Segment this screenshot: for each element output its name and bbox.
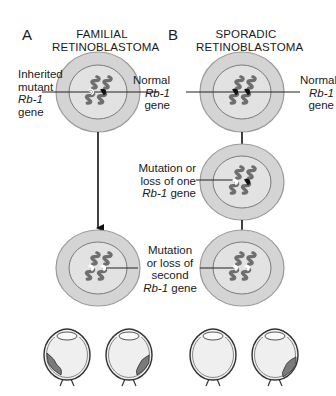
- panel-b-title-line2: RETINOBLASTOMA: [196, 41, 296, 54]
- gene-name: Rb-1: [18, 93, 78, 106]
- label-text: Inherited: [18, 68, 78, 81]
- label-text: gene: [168, 282, 197, 294]
- label-normal-gene-b-right: Normal Rb-1 gene: [300, 74, 334, 112]
- label-text: loss of one: [126, 175, 196, 188]
- gene-name: Rb-1: [142, 187, 167, 199]
- label-text: Normal: [118, 74, 170, 87]
- label-text: Mutation: [138, 244, 202, 257]
- panel-a-title-line1: FAMILIAL: [52, 28, 152, 41]
- cell-b-bottom: [200, 230, 284, 306]
- label-text: second: [138, 269, 202, 282]
- label-text: gene: [300, 99, 334, 112]
- cell-b-middle: [196, 144, 284, 220]
- label-text: Normal: [300, 74, 334, 87]
- panel-b-title-line1: SPORADIC: [196, 28, 296, 41]
- eye-a-left: [44, 329, 90, 386]
- label-text: gene: [18, 106, 78, 119]
- label-first-hit: Mutation or loss of one Rb-1 gene: [126, 162, 196, 200]
- panel-a-letter: A: [22, 27, 32, 42]
- gene-name: Rb-1: [300, 87, 334, 100]
- panel-a-title-line2: RETINOBLASTOMA: [52, 41, 152, 54]
- gene-name: Rb-1: [118, 87, 170, 100]
- label-text: or loss of: [138, 257, 202, 270]
- eye-b-right: [252, 329, 298, 386]
- label-text: Mutation or: [126, 162, 196, 175]
- panel-a-title: FAMILIAL RETINOBLASTOMA: [52, 28, 152, 54]
- panel-b-letter: B: [168, 27, 178, 42]
- label-text: gene: [118, 99, 170, 112]
- panel-b-title: SPORADIC RETINOBLASTOMA: [196, 28, 296, 54]
- eye-b-left: [190, 329, 236, 386]
- cell-a-bottom: [56, 230, 140, 306]
- eye-a-right: [106, 329, 152, 386]
- gene-name: Rb-1: [143, 282, 168, 294]
- cell-b-top: [186, 52, 300, 132]
- label-second-hit: Mutation or loss of second Rb-1 gene: [138, 244, 202, 294]
- label-text: mutant: [18, 81, 78, 94]
- label-normal-gene-a: Normal Rb-1 gene: [118, 74, 170, 112]
- label-inherited-mutant-gene: Inherited mutant Rb-1 gene: [18, 68, 78, 118]
- label-text: gene: [167, 187, 196, 199]
